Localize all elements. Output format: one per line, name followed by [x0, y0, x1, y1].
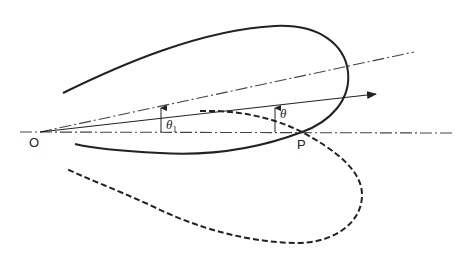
theta-label: θ [280, 106, 287, 121]
inclined-axis [40, 52, 414, 132]
intersection-label: P [297, 137, 306, 152]
theta1-subscript: 1 [172, 124, 177, 134]
origin-label: O [29, 135, 39, 150]
reference-axis [20, 132, 452, 133]
diagram-canvas: O P θ1 θ [0, 0, 466, 257]
theta1-label: θ1 [166, 117, 177, 134]
dashed-loop [67, 111, 362, 243]
direction-arrow [40, 94, 376, 132]
